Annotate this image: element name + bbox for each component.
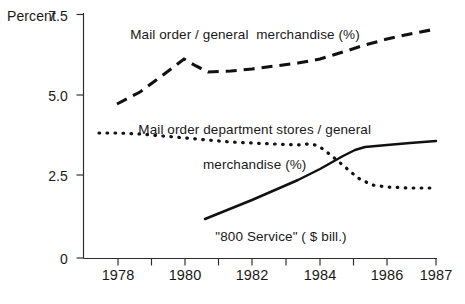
annotation-line-2: merchandise (%) (203, 157, 307, 172)
annotation-800-service: "800 Service" ( $ bill.) (196, 228, 366, 245)
y-tick-label-5-0: 5.0 (24, 88, 68, 104)
x-tick-label-1987: 1987 (408, 267, 464, 283)
x-tick-label-1982: 1982 (224, 267, 280, 283)
y-axis-ticks (77, 15, 84, 259)
x-axis-ticks (118, 259, 436, 266)
x-tick-label-1978: 1978 (90, 267, 146, 283)
y-tick-label-2-5: 2.5 (24, 168, 68, 184)
annotation-mail-order-general-merchandise: Mail order / general merchandise (%) (108, 26, 382, 43)
line-chart: Percent 7.5 5.0 2.5 0 1978 1980 1982 198… (0, 0, 465, 304)
annotation-line-1: Mail order department stores / general (138, 122, 371, 137)
x-tick-label-1986: 1986 (359, 267, 415, 283)
annotation-mail-order-department-stores: Mail order department stores / general m… (112, 104, 382, 190)
x-tick-label-1984: 1984 (292, 267, 348, 283)
y-tick-label-0: 0 (24, 251, 68, 267)
y-tick-label-7-5: 7.5 (24, 8, 68, 24)
x-tick-label-1980: 1980 (157, 267, 213, 283)
